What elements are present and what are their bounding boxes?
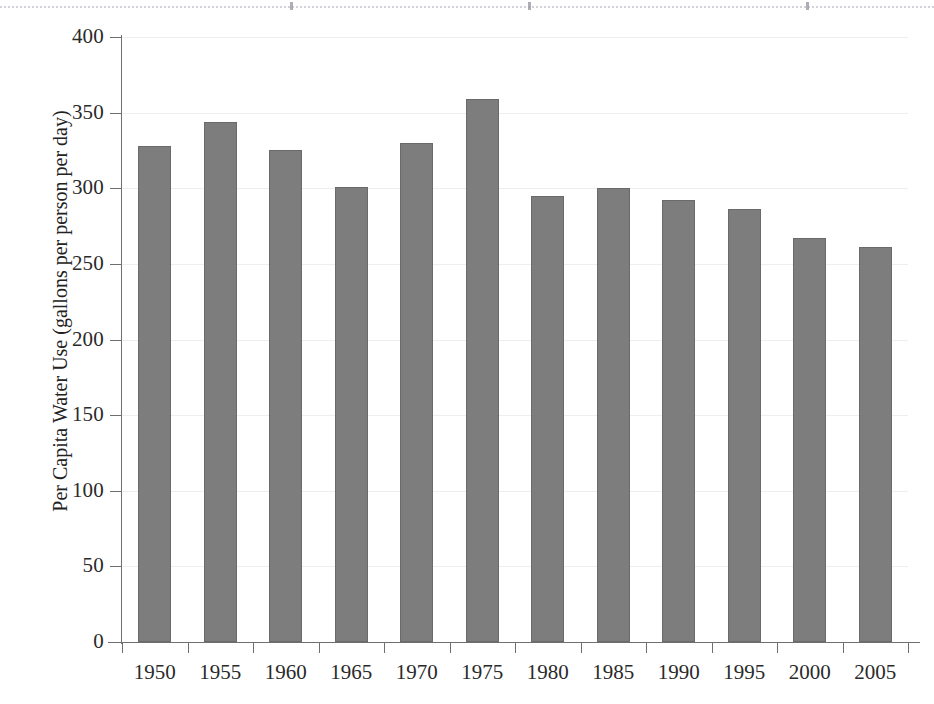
bar: [269, 150, 302, 642]
x-tick-mark: [777, 642, 778, 653]
x-tick-mark: [515, 642, 516, 653]
y-tick-label: 200: [44, 329, 104, 350]
x-tick-mark: [319, 642, 320, 653]
y-tick-mark: [110, 491, 122, 492]
x-tick-mark: [646, 642, 647, 653]
x-tick-mark: [384, 642, 385, 653]
y-tick-mark: [110, 37, 122, 38]
y-tick-label-wrap: 250: [40, 253, 104, 274]
y-tick-label-wrap: 350: [40, 102, 104, 123]
y-tick-label: 300: [44, 177, 104, 198]
gridline: [122, 415, 908, 416]
y-tick-label-wrap: 200: [40, 329, 104, 350]
x-tick-mark: [253, 642, 254, 653]
y-tick-label-wrap: 150: [40, 404, 104, 425]
y-tick-mark: [110, 264, 122, 265]
gridline: [122, 491, 908, 492]
bar: [335, 187, 368, 642]
bar: [400, 143, 433, 642]
y-tick-label: 350: [44, 102, 104, 123]
y-axis-label: Per Capita Water Use (gallons per person…: [49, 0, 71, 631]
bar: [728, 209, 761, 642]
y-tick-mark: [110, 340, 122, 341]
x-tick-mark: [122, 642, 123, 653]
x-tick-mark: [843, 642, 844, 653]
y-tick-label: 150: [44, 404, 104, 425]
bar: [531, 196, 564, 642]
y-tick-label: 0: [44, 631, 104, 652]
gridline: [122, 113, 908, 114]
chart-page: Per Capita Water Use (gallons per person…: [0, 0, 934, 704]
y-tick-label-wrap: 100: [40, 480, 104, 501]
y-axis-label-holder: Per Capita Water Use (gallons per person…: [0, 0, 40, 700]
x-tick-mark: [712, 642, 713, 653]
y-tick-label: 100: [44, 480, 104, 501]
y-tick-mark: [110, 113, 122, 114]
gridline: [122, 188, 908, 189]
x-tick-mark: [450, 642, 451, 653]
bar: [597, 188, 630, 642]
y-tick-label: 400: [44, 26, 104, 47]
y-tick-mark: [110, 188, 122, 189]
x-axis-line: [108, 642, 920, 643]
y-tick-label-wrap: 0: [40, 631, 104, 652]
bar-chart: Per Capita Water Use (gallons per person…: [0, 0, 934, 704]
y-tick-label-wrap: 400: [40, 26, 104, 47]
bar: [204, 122, 237, 642]
x-tick-mark: [581, 642, 582, 653]
gridline: [122, 264, 908, 265]
y-tick-mark: [110, 415, 122, 416]
bar: [138, 146, 171, 642]
x-tick-label: 2005: [830, 660, 920, 684]
plot-area: [122, 37, 908, 642]
gridline: [122, 566, 908, 567]
y-tick-mark: [110, 566, 122, 567]
bar: [466, 99, 499, 642]
y-tick-label-wrap: 300: [40, 177, 104, 198]
x-tick-mark: [188, 642, 189, 653]
y-tick-mark: [110, 642, 122, 643]
gridline: [122, 37, 908, 38]
y-tick-label: 50: [44, 555, 104, 576]
y-tick-label: 250: [44, 253, 104, 274]
bar: [662, 200, 695, 642]
y-tick-label-wrap: 50: [40, 555, 104, 576]
bar: [859, 247, 892, 642]
gridline: [122, 340, 908, 341]
x-tick-mark: [908, 642, 909, 653]
bar: [793, 238, 826, 642]
